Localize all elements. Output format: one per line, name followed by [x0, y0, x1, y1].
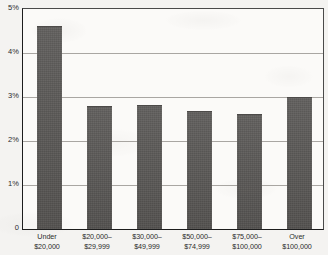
bar: [187, 111, 212, 229]
bar: [137, 105, 162, 229]
x-axis-label-line1: $30,000–: [132, 232, 162, 241]
x-axis-label-line1: $50,000–: [182, 232, 212, 241]
bar: [287, 97, 312, 229]
x-axis-label-line1: $75,000–: [232, 232, 262, 241]
y-axis-tick-label: 1%: [0, 180, 19, 188]
y-axis-tick-label: 5%: [0, 4, 19, 12]
x-axis-label-line2: $100,000: [266, 242, 328, 252]
x-axis-category-label: Over$100,000: [266, 232, 328, 251]
bar-chart: 5%4%3%2%1%0 Under$20,000$20,000–$29,999$…: [0, 0, 328, 255]
gridline: [23, 53, 323, 54]
bar: [37, 26, 62, 229]
y-axis-tick-label: 3%: [0, 92, 19, 100]
plot-area: [22, 8, 324, 230]
x-axis-label-line1: $20,000–: [82, 232, 112, 241]
gridline: [23, 185, 323, 186]
bar: [237, 114, 262, 229]
x-axis-label-line1: Over: [289, 232, 304, 241]
y-axis-tick-label: 0: [0, 224, 19, 232]
y-axis-tick-label: 2%: [0, 136, 19, 144]
x-axis-label-line1: Under: [37, 232, 56, 241]
y-axis-tick-label: 4%: [0, 48, 19, 56]
gridline: [23, 141, 323, 142]
bar: [87, 106, 112, 229]
gridline: [23, 97, 323, 98]
